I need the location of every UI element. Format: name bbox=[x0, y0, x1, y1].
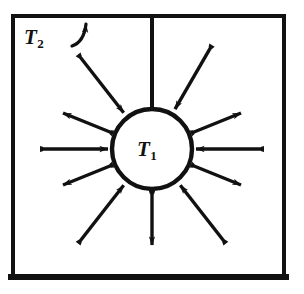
enclosure-temperature-symbol: T bbox=[24, 25, 37, 49]
arrow-down-right-outward bbox=[193, 165, 241, 184]
sphere-temperature-label: T1 bbox=[137, 139, 157, 162]
arrow-upper-right-inward bbox=[175, 47, 211, 109]
arrow-upper-left-inward bbox=[79, 56, 123, 113]
arrow-lower-right-inward bbox=[180, 185, 224, 242]
enclosure-temperature-subscript: 2 bbox=[37, 36, 44, 51]
sphere-temperature-subscript: 1 bbox=[150, 148, 157, 163]
t2-leader-arrow bbox=[72, 24, 86, 46]
arrow-up-right-outward bbox=[193, 113, 241, 132]
arrow-up-left-outward bbox=[63, 113, 111, 132]
arrow-lower-left-inward bbox=[79, 185, 123, 242]
enclosure-temperature-label: T2 bbox=[24, 27, 44, 50]
arrow-down-left-outward bbox=[63, 165, 111, 184]
sphere-temperature-symbol: T bbox=[137, 137, 150, 161]
